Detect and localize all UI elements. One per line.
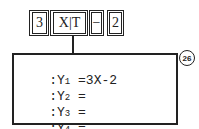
- y4-prefix: :Y: [49, 121, 65, 129]
- y4-equation: =: [70, 121, 86, 129]
- y4-line[interactable]: :Y4 =: [18, 105, 86, 129]
- key-2-label: 2: [112, 15, 119, 31]
- step-number-badge: 26: [179, 50, 195, 66]
- key-3-label: 3: [36, 15, 43, 31]
- calculator-screen: :Y1 =3X-2 :Y2 = :Y3 = :Y4 =: [12, 53, 178, 125]
- pointer-line: [72, 36, 74, 54]
- key-2[interactable]: 2: [109, 12, 122, 34]
- key-x-t-theta-n[interactable]: X|T: [53, 12, 86, 34]
- step-number-label: 26: [183, 54, 192, 63]
- key-minus-label: −: [93, 15, 101, 31]
- key-minus[interactable]: −: [91, 12, 102, 34]
- key-3[interactable]: 3: [32, 12, 47, 34]
- key-x-t-label: X|T: [59, 15, 80, 31]
